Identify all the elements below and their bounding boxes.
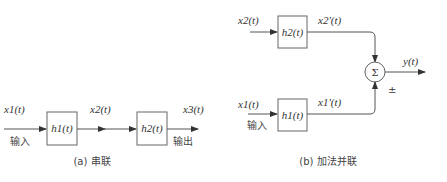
series-input-label: 输入 — [10, 135, 30, 147]
series-input-signal-label: x1(t) — [3, 103, 25, 116]
parallel-top-input-signal-label: x2(t) — [237, 14, 259, 27]
parallel-bottom-output-signal-label: x1'(t) — [317, 96, 341, 109]
parallel-block-h2-label: h2(t) — [282, 26, 304, 39]
parallel-caption: (b) 加法并联 — [299, 155, 356, 167]
block-diagram: x1(t) 输入 h1(t) x2(t) h2(t) x3(t) 输出 (a) … — [0, 0, 447, 182]
parallel-top-output-signal-label: x2'(t) — [317, 14, 341, 27]
parallel-bottom-input-signal-label: x1(t) — [237, 98, 259, 111]
parallel-bottom-input-label: 输入 — [247, 119, 267, 131]
series-intermediate-signal-label: x2(t) — [89, 103, 111, 116]
series-block-h1-label: h1(t) — [51, 122, 73, 135]
parallel-output-signal-label: y(t) — [402, 55, 419, 68]
parallel-diagram: x2(t) h2(t) x2'(t) Σ y(t) ± x1(t) 输入 h1(… — [237, 14, 425, 167]
series-output-label: 输出 — [173, 135, 193, 147]
summer-sign-label: ± — [388, 84, 396, 95]
series-caption: (a) 串联 — [73, 156, 110, 167]
series-diagram: x1(t) 输入 h1(t) x2(t) h2(t) x3(t) 输出 (a) … — [3, 103, 204, 167]
series-block-h2-label: h2(t) — [141, 122, 163, 135]
parallel-block-h1-label: h1(t) — [282, 109, 304, 122]
series-output-signal-label: x3(t) — [182, 103, 204, 116]
parallel-top-to-summer-wire — [307, 32, 375, 62]
summer-sigma-icon: Σ — [371, 67, 378, 78]
